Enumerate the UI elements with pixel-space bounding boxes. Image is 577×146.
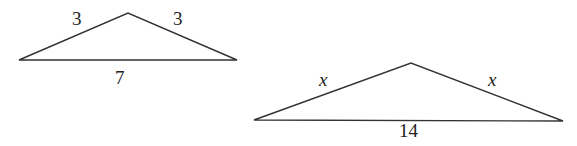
small-triangle bbox=[19, 13, 237, 60]
large-triangle bbox=[254, 63, 563, 121]
large-triangle-left-side-label: x bbox=[318, 69, 328, 90]
small-triangle-left-side-label: 3 bbox=[72, 8, 82, 29]
large-triangle-base-label: 14 bbox=[399, 120, 419, 141]
small-triangle-base-label: 7 bbox=[115, 67, 125, 88]
similar-triangles-diagram: 3 3 7 x x 14 bbox=[0, 0, 577, 146]
large-triangle-right-side-label: x bbox=[487, 69, 497, 90]
small-triangle-right-side-label: 3 bbox=[173, 8, 183, 29]
diagram-canvas: 3 3 7 x x 14 bbox=[0, 0, 577, 146]
